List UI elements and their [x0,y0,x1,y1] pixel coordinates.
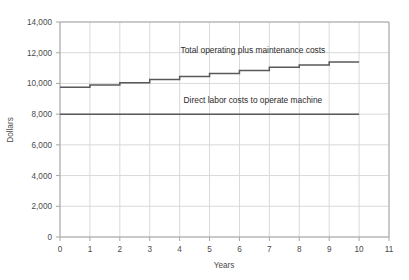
y-tick-label: 4,000 [32,172,53,181]
x-axis-title: Years [214,261,235,270]
x-tick-label: 11 [385,245,394,254]
x-tick-label: 2 [118,245,123,254]
x-tick-label: 6 [237,245,242,254]
x-tick-label: 7 [267,245,272,254]
x-tick-label: 4 [177,245,182,254]
y-tick-label: 6,000 [32,141,53,150]
y-tick-label: 12,000 [27,49,52,58]
series-label: Direct labor costs to operate machine [184,95,323,105]
x-tick-label: 8 [297,245,302,254]
chart-container: 02,0004,0006,0008,00010,00012,00014,0000… [0,0,409,280]
cost-step-chart: 02,0004,0006,0008,00010,00012,00014,0000… [0,0,409,280]
y-tick-label: 14,000 [27,18,52,27]
x-tick-label: 3 [147,245,152,254]
y-tick-label: 10,000 [27,79,52,88]
x-tick-label: 1 [88,245,93,254]
y-tick-label: 0 [47,233,52,242]
x-tick-label: 10 [355,245,365,254]
chart-background [0,0,409,280]
x-tick-label: 5 [207,245,212,254]
y-tick-label: 8,000 [32,110,53,119]
y-tick-label: 2,000 [32,202,53,211]
x-tick-label: 0 [58,245,63,254]
y-axis-title: Dollars [6,117,15,142]
x-tick-label: 9 [327,245,332,254]
series-label: Total operating plus maintenance costs [181,45,326,55]
